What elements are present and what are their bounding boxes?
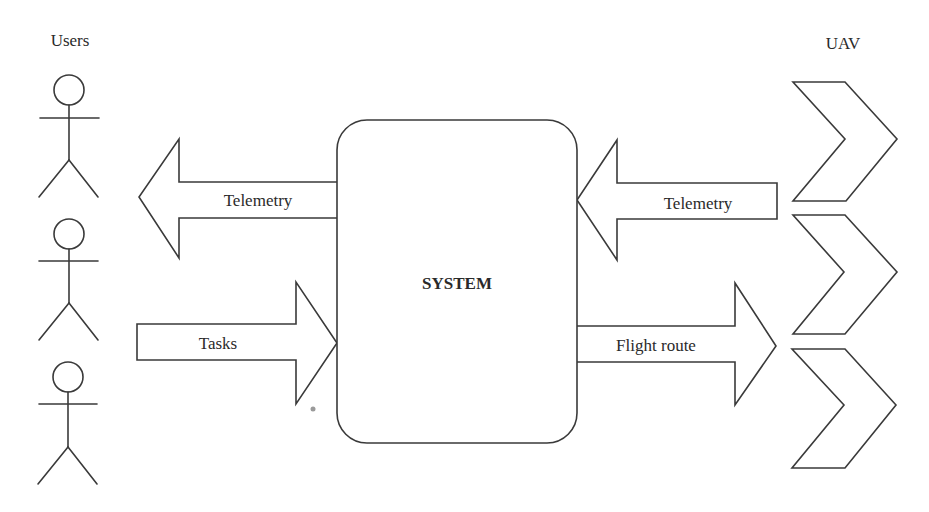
flight-route-label: Flight route <box>616 336 696 355</box>
flight-route-arrow: Flight route <box>575 283 776 405</box>
telemetry-to-users-label: Telemetry <box>224 191 293 210</box>
telemetry-to-users-arrow: Telemetry <box>139 139 339 258</box>
users-label: Users <box>51 31 90 50</box>
system-context-diagram: Users UAV Telemetry Tasks Telemetry <box>0 0 929 512</box>
user-actor-icon <box>39 219 98 340</box>
uav-label: UAV <box>826 34 861 53</box>
uav-chevron-icon <box>793 82 897 201</box>
uav-chevron-icon <box>792 349 896 468</box>
tasks-arrow: Tasks <box>137 282 337 404</box>
user-actor-icon <box>39 75 99 197</box>
system-box: SYSTEM <box>337 120 577 443</box>
tasks-label: Tasks <box>199 334 237 353</box>
system-label: SYSTEM <box>422 274 492 293</box>
telemetry-from-uav-arrow: Telemetry <box>577 140 777 260</box>
uav-chevron-icon <box>793 215 897 334</box>
user-actor-icon <box>38 362 97 484</box>
stray-mark <box>311 407 316 412</box>
telemetry-from-uav-label: Telemetry <box>664 194 733 213</box>
